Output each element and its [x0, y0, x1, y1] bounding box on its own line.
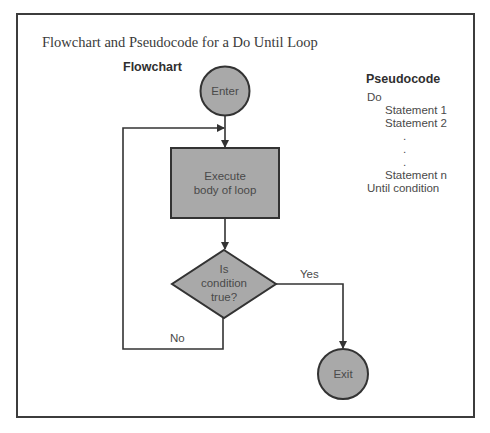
flowchart-diagram — [0, 0, 490, 433]
process-label-line2: body of loop — [171, 183, 279, 197]
pseudocode-ellipsis-dot: . — [367, 143, 447, 156]
decision-label-line3: true? — [172, 290, 276, 304]
pseudocode-line: Statement 1 — [367, 104, 447, 117]
yes-label: Yes — [300, 268, 319, 280]
pseudocode-block: Do Statement 1 Statement 2 . . . Stateme… — [367, 91, 447, 195]
pseudocode-line: Do — [367, 91, 447, 104]
pseudocode-ellipsis-dot: . — [367, 130, 447, 143]
decision-label-line2: condition — [172, 276, 276, 290]
enter-label: Enter — [200, 84, 250, 98]
pseudocode-line: Statement n — [367, 169, 447, 182]
pseudocode-line: Until condition — [367, 182, 447, 195]
pseudocode-line: Statement 2 — [367, 117, 447, 130]
exit-label: Exit — [318, 367, 368, 381]
yes-edge — [276, 284, 343, 348]
decision-label-line1: Is — [172, 262, 276, 276]
pseudocode-ellipsis-dot: . — [367, 156, 447, 169]
no-label: No — [170, 332, 185, 344]
process-label-line1: Execute — [171, 169, 279, 183]
